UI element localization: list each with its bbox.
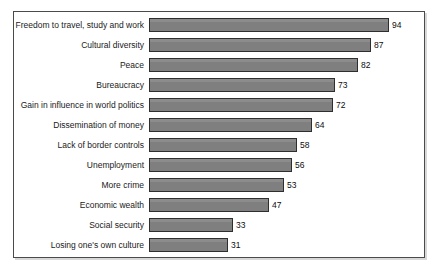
bar bbox=[149, 78, 335, 92]
category-label: Economic wealth bbox=[14, 195, 144, 215]
category-label: Cultural diversity bbox=[14, 35, 144, 55]
bar-value-label: 33 bbox=[236, 218, 245, 232]
category-label: Unemployment bbox=[14, 155, 144, 175]
bar bbox=[149, 98, 333, 112]
bar-value-label: 87 bbox=[374, 38, 383, 52]
category-label: Social security bbox=[14, 215, 144, 235]
bar bbox=[149, 138, 297, 152]
bar-row: More crime53 bbox=[14, 175, 426, 195]
category-label: More crime bbox=[14, 175, 144, 195]
bar-value-label: 47 bbox=[272, 198, 281, 212]
category-label: Losing one's own culture bbox=[14, 235, 144, 255]
category-label: Dissemination of money bbox=[14, 115, 144, 135]
bar bbox=[149, 198, 269, 212]
bar bbox=[149, 158, 292, 172]
bar bbox=[149, 38, 371, 52]
plot-panel: Freedom to travel, study and work94Cultu… bbox=[13, 11, 425, 258]
bar-row: Freedom to travel, study and work94 bbox=[14, 15, 426, 35]
bar-value-label: 53 bbox=[287, 178, 296, 192]
bar bbox=[149, 178, 284, 192]
category-label: Gain in influence in world politics bbox=[14, 95, 144, 115]
bar-rows: Freedom to travel, study and work94Cultu… bbox=[14, 12, 426, 259]
bar-row: Social security33 bbox=[14, 215, 426, 235]
bar-row: Economic wealth47 bbox=[14, 195, 426, 215]
bar-chart: Freedom to travel, study and work94Cultu… bbox=[0, 0, 440, 277]
bar-value-label: 94 bbox=[392, 18, 401, 32]
bar-row: Lack of border controls58 bbox=[14, 135, 426, 155]
bar-value-label: 82 bbox=[361, 58, 370, 72]
bar-value-label: 56 bbox=[295, 158, 304, 172]
bar-row: Peace82 bbox=[14, 55, 426, 75]
bar bbox=[149, 18, 389, 32]
bar-row: Cultural diversity87 bbox=[14, 35, 426, 55]
bar-row: Dissemination of money64 bbox=[14, 115, 426, 135]
bar-value-label: 72 bbox=[336, 98, 345, 112]
category-label: Peace bbox=[14, 55, 144, 75]
bar-row: Gain in influence in world politics72 bbox=[14, 95, 426, 115]
bar bbox=[149, 238, 228, 252]
category-label: Freedom to travel, study and work bbox=[14, 15, 144, 35]
bar-value-label: 58 bbox=[300, 138, 309, 152]
bar-row: Unemployment56 bbox=[14, 155, 426, 175]
bar-value-label: 64 bbox=[315, 118, 324, 132]
bar-row: Bureaucracy73 bbox=[14, 75, 426, 95]
bar-value-label: 73 bbox=[338, 78, 347, 92]
bar bbox=[149, 218, 233, 232]
category-label: Bureaucracy bbox=[14, 75, 144, 95]
bar-value-label: 31 bbox=[231, 238, 240, 252]
category-label: Lack of border controls bbox=[14, 135, 144, 155]
bar-row: Losing one's own culture31 bbox=[14, 235, 426, 255]
bar bbox=[149, 58, 358, 72]
bar bbox=[149, 118, 312, 132]
